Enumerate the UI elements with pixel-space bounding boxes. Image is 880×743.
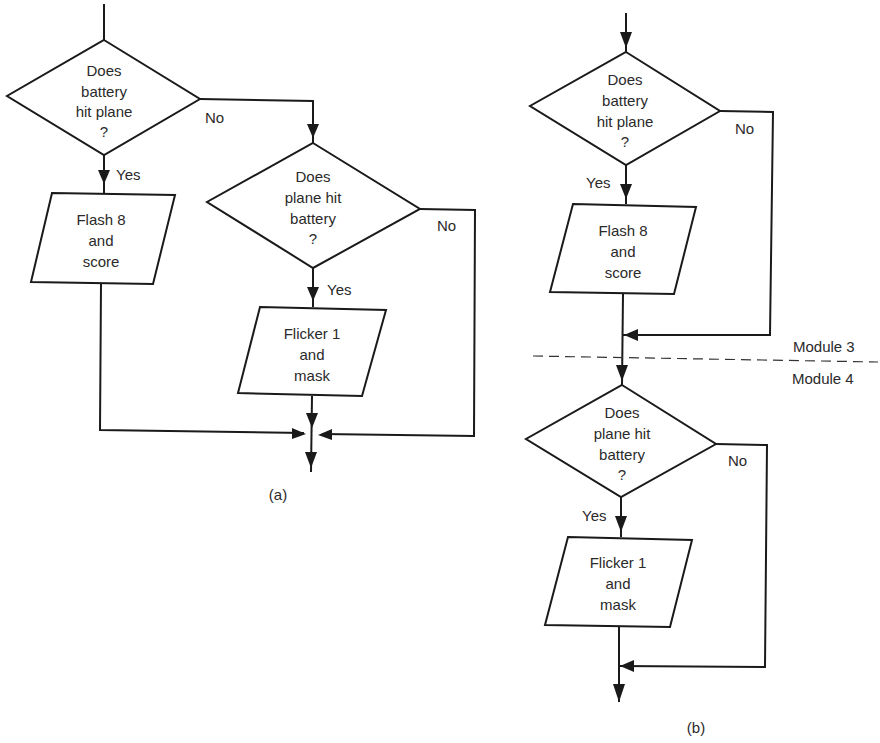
arrow-down-icon (620, 32, 632, 48)
arrow-down-icon (98, 170, 110, 184)
arrow-down-icon (305, 452, 317, 468)
process-text: score (83, 253, 120, 270)
decision-text: plane hit (285, 189, 343, 206)
decision-text: ? (618, 466, 626, 483)
arrow-down-icon (613, 684, 625, 702)
decision-text: plane hit (594, 425, 652, 442)
yes-label: Yes (582, 507, 606, 524)
arrow-down-icon (615, 516, 627, 532)
arrow-left-icon (318, 429, 332, 440)
process-text: Flash 8 (598, 222, 647, 239)
caption-b: (b) (687, 719, 705, 736)
no-label: No (205, 109, 224, 126)
arrow-down-icon (306, 413, 318, 428)
process-text: and (88, 232, 113, 249)
process-text: Flicker 1 (590, 554, 647, 571)
arrow-right-icon (292, 428, 306, 439)
module-4-label: Module 4 (792, 370, 854, 387)
decision-text: hit plane (76, 103, 133, 120)
decision-text: Does (86, 62, 121, 79)
process-text: and (610, 243, 635, 260)
process-text: mask (600, 596, 636, 613)
decision-text: battery (599, 446, 645, 463)
arrow-down-icon (620, 184, 632, 199)
process-text: Flicker 1 (284, 325, 341, 342)
decision-text: battery (290, 210, 336, 227)
no-label: No (735, 120, 754, 137)
decision-text: Does (295, 168, 330, 185)
arrow-down-icon (307, 287, 319, 301)
no-label: No (437, 217, 456, 234)
process-text: Flash 8 (76, 211, 125, 228)
decision-text: ? (309, 230, 317, 247)
decision-text: hit plane (597, 113, 654, 130)
yes-label: Yes (327, 281, 351, 298)
arrow-left-icon (624, 329, 638, 341)
yes-label: Yes (586, 174, 610, 191)
process-text: score (605, 264, 642, 281)
process-text: mask (294, 367, 330, 384)
diagram-a: Does battery hit plane ? Yes Flash 8 and… (7, 4, 475, 503)
decision-text: ? (621, 133, 629, 150)
arrow-down-icon (616, 365, 628, 381)
diagram-b: Does battery hit plane ? Yes Flash 8 and… (526, 13, 878, 736)
process-text: and (299, 346, 324, 363)
caption-a: (a) (269, 486, 287, 503)
arrow-down-icon (307, 124, 319, 138)
process-text: and (605, 575, 630, 592)
decision-text: Does (607, 71, 642, 88)
no-label: No (728, 452, 747, 469)
module-3-label: Module 3 (793, 338, 855, 355)
flowchart-canvas: Does battery hit plane ? Yes Flash 8 and… (0, 0, 880, 743)
decision-text: battery (81, 83, 127, 100)
decision-text: battery (602, 92, 648, 109)
module-divider (533, 356, 878, 362)
decision-text: Does (604, 404, 639, 421)
yes-label: Yes (116, 166, 140, 183)
decision-text: ? (100, 123, 108, 140)
arrow-left-icon (620, 660, 634, 672)
